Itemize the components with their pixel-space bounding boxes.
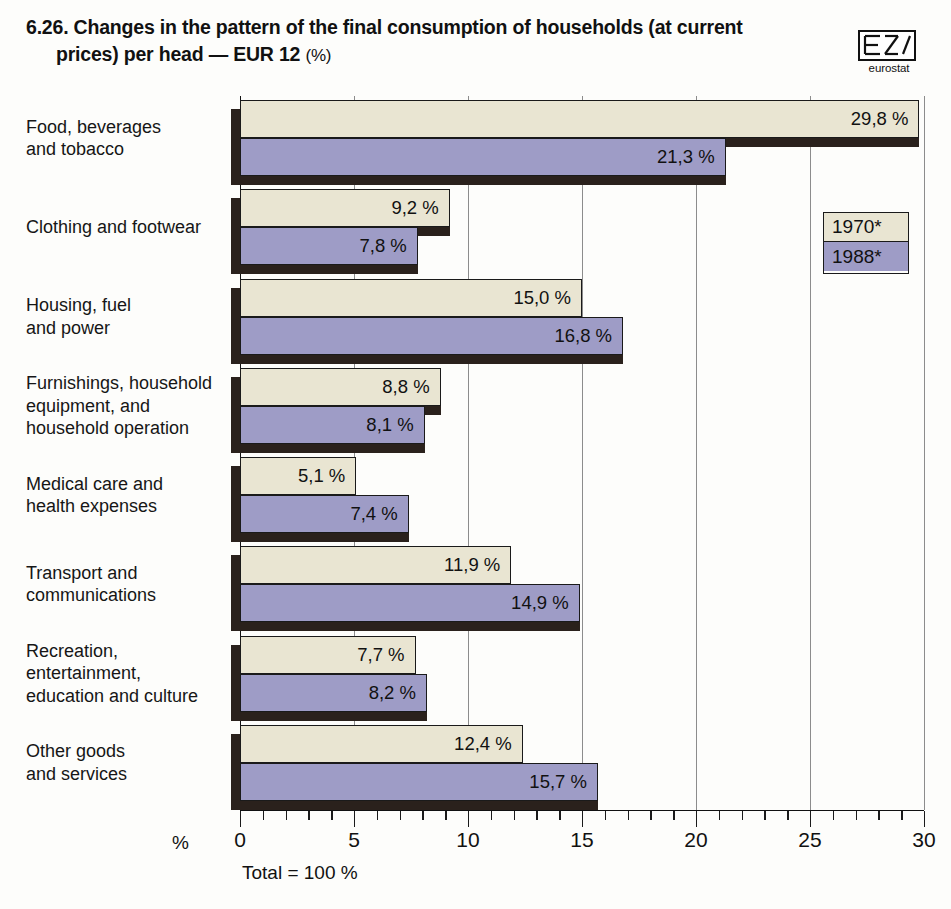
bar-row: 8,1 %	[240, 406, 924, 444]
bar-1970-7[interactable]: 12,4 %	[240, 725, 523, 763]
bar-group: 15,0 %16,8 %	[240, 279, 924, 355]
x-tick-minor	[400, 811, 401, 820]
x-tick-minor	[742, 811, 743, 820]
bar-row: 29,8 %	[240, 100, 924, 138]
bar-1970-2[interactable]: 15,0 %	[240, 279, 582, 317]
x-tick-label-0: 0	[210, 828, 270, 852]
bar-row: 12,4 %	[240, 725, 924, 763]
x-tick-minor	[331, 811, 332, 820]
bar-value-label: 8,8 %	[382, 376, 429, 398]
x-axis-labels: 051015202530	[0, 828, 951, 858]
category-label-5: Transport andcommunications	[26, 562, 238, 607]
category-label-line: equipment, and	[26, 396, 150, 416]
x-tick-label-25: 25	[780, 828, 840, 852]
title-line-2: prices) per head — EUR 12	[56, 43, 300, 65]
bar-1988-3[interactable]: 8,1 %	[240, 406, 425, 444]
bar-1988-4[interactable]: 7,4 %	[240, 495, 409, 533]
x-tick-minor	[628, 811, 629, 820]
x-tick-minor	[536, 811, 537, 820]
category-label-6: Recreation,entertainment,education and c…	[26, 640, 238, 708]
category-label-2: Housing, fueland power	[26, 294, 238, 339]
bar-row: 7,7 %	[240, 636, 924, 674]
eurostat-logo: eurostat	[858, 30, 920, 80]
x-tick-label-10: 10	[438, 828, 498, 852]
x-tick-minor	[286, 811, 287, 820]
x-tick-minor	[308, 811, 309, 820]
bar-1988-1[interactable]: 7,8 %	[240, 227, 418, 265]
bar-value-label: 16,8 %	[554, 325, 612, 347]
bar-value-label: 15,0 %	[513, 287, 571, 309]
title-number: 6.26.	[26, 16, 68, 38]
bar-1988-7[interactable]: 15,7 %	[240, 763, 598, 801]
legend-item-1970[interactable]: 1970*	[824, 213, 908, 242]
x-tick-minor	[901, 811, 902, 820]
bar-1988-0[interactable]: 21,3 %	[240, 138, 726, 176]
chart-legend: 1970* 1988*	[823, 212, 909, 274]
bar-1970-5[interactable]: 11,9 %	[240, 546, 511, 584]
x-tick-minor	[422, 811, 423, 820]
category-label-4: Medical care andhealth expenses	[26, 473, 238, 518]
category-label-line: Transport and	[26, 563, 137, 583]
x-tick-minor	[605, 811, 606, 820]
x-axis-ticks	[240, 811, 924, 827]
eurostat-logo-word: eurostat	[858, 62, 920, 75]
bar-row: 8,8 %	[240, 368, 924, 406]
x-tick-minor	[514, 811, 515, 820]
chart-header: 6.26. Changes in the pattern of the fina…	[0, 0, 951, 88]
bar-row: 16,8 %	[240, 317, 924, 355]
x-tick-minor	[764, 811, 765, 820]
bar-group: 11,9 %14,9 %	[240, 546, 924, 622]
eurostat-logo-icon	[858, 30, 916, 61]
x-tick-major	[354, 811, 355, 827]
category-label-line: communications	[26, 585, 156, 605]
bar-1970-4[interactable]: 5,1 %	[240, 457, 356, 495]
category-label-line: Food, beverages	[26, 117, 161, 137]
x-tick-label-30: 30	[894, 828, 951, 852]
bar-1970-0[interactable]: 29,8 %	[240, 100, 919, 138]
x-tick-minor	[650, 811, 651, 820]
bar-value-label: 9,2 %	[391, 197, 438, 219]
x-tick-major	[468, 811, 469, 827]
bar-row: 14,9 %	[240, 584, 924, 622]
bar-group: 5,1 %7,4 %	[240, 457, 924, 533]
bar-value-label: 12,4 %	[454, 733, 512, 755]
bar-row: 8,2 %	[240, 674, 924, 712]
legend-label-1988: 1988*	[832, 246, 882, 268]
x-tick-major	[810, 811, 811, 827]
category-label-line: entertainment,	[26, 663, 141, 683]
bar-1988-2[interactable]: 16,8 %	[240, 317, 623, 355]
category-label-line: household operation	[26, 418, 189, 438]
category-label-line: and power	[26, 318, 110, 338]
x-tick-major	[240, 811, 241, 827]
bar-value-label: 7,8 %	[360, 235, 407, 257]
category-label-line: Furnishings, household	[26, 373, 212, 393]
bar-group: 9,2 %7,8 %	[240, 189, 924, 265]
bar-1970-1[interactable]: 9,2 %	[240, 189, 450, 227]
bar-row: 7,8 %	[240, 227, 924, 265]
x-tick-minor	[833, 811, 834, 820]
bar-value-label: 21,3 %	[657, 146, 715, 168]
total-note: Total = 100 %	[242, 862, 358, 884]
grid-line-30	[924, 96, 925, 810]
bar-group: 12,4 %15,7 %	[240, 725, 924, 801]
legend-label-1970: 1970*	[832, 216, 882, 238]
bar-row: 5,1 %	[240, 457, 924, 495]
x-tick-minor	[263, 811, 264, 820]
bar-1988-5[interactable]: 14,9 %	[240, 584, 580, 622]
category-label-line: Clothing and footwear	[26, 217, 201, 237]
bar-row: 7,4 %	[240, 495, 924, 533]
x-tick-minor	[559, 811, 560, 820]
category-label-line: Recreation,	[26, 641, 118, 661]
x-tick-minor	[491, 811, 492, 820]
bar-value-label: 5,1 %	[298, 465, 345, 487]
x-axis-unit-label: %	[172, 832, 189, 854]
bar-1988-6[interactable]: 8,2 %	[240, 674, 427, 712]
title-line-1: Changes in the pattern of the final cons…	[74, 16, 743, 38]
bar-value-label: 11,9 %	[444, 554, 500, 576]
x-tick-minor	[377, 811, 378, 820]
bar-1970-6[interactable]: 7,7 %	[240, 636, 416, 674]
legend-item-1988[interactable]: 1988*	[824, 242, 908, 271]
bar-1970-3[interactable]: 8,8 %	[240, 368, 441, 406]
bar-group: 7,7 %8,2 %	[240, 636, 924, 712]
category-label-line: and tobacco	[26, 139, 124, 159]
